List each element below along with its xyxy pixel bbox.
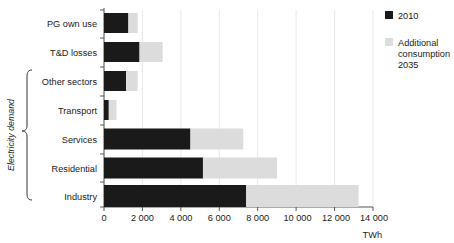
bar-segment-t-d-losses-2010 <box>104 42 140 62</box>
bar-segment-residential-additional-2035 <box>203 158 277 179</box>
bar-row-services <box>104 129 243 150</box>
xtick-4000: 4 000 <box>169 213 192 223</box>
bar-segment-pg-own-use-additional-2035 <box>128 13 137 33</box>
legend-swatch-2010 <box>385 11 393 19</box>
category-label-services: Services <box>62 135 98 145</box>
xtick-10000: 10 000 <box>283 213 311 223</box>
x-axis-ticks <box>104 207 373 211</box>
electricity-demand-brace <box>22 70 32 200</box>
legend-label-additional-line2: consumption <box>398 49 450 59</box>
category-label-transport: Transport <box>58 106 97 116</box>
bar-row-other-sectors <box>104 71 138 91</box>
category-label-residential: Residential <box>52 164 97 174</box>
legend-label-additional-line1: Additional <box>398 38 438 48</box>
bar-segment-transport-2010 <box>104 100 109 120</box>
legend-label-2010: 2010 <box>398 11 418 21</box>
bar-row-residential <box>104 158 277 179</box>
category-label-industry: Industry <box>64 192 97 202</box>
x-axis-unit-label: TWh <box>363 230 382 240</box>
legend-label-additional-line3: 2035 <box>398 60 418 70</box>
xtick-2000: 2 000 <box>131 213 154 223</box>
bar-segment-other-sectors-2010 <box>104 71 126 91</box>
bar-row-industry <box>104 185 359 207</box>
xtick-6000: 6 000 <box>208 213 231 223</box>
x-axis-tick-labels: 0 2 000 4 000 6 000 8 000 10 000 12 000 … <box>101 213 388 223</box>
bar-segment-other-sectors-additional-2035 <box>126 71 138 91</box>
stacked-bar-chart: PG own use T&D losses Other sectors Tran… <box>0 0 454 243</box>
legend-swatch-additional <box>385 38 393 46</box>
category-label-td-losses: T&D losses <box>50 48 97 58</box>
bar-segment-pg-own-use-2010 <box>104 13 128 33</box>
category-label-pg-own-use: PG own use <box>47 19 97 29</box>
y-axis-ticks <box>100 10 104 207</box>
bar-row-t-d-losses <box>104 42 163 62</box>
bar-segment-t-d-losses-additional-2035 <box>140 42 163 62</box>
chart-container: PG own use T&D losses Other sectors Tran… <box>0 0 454 243</box>
bar-row-transport <box>104 100 116 120</box>
xtick-0: 0 <box>101 213 106 223</box>
bar-segment-transport-additional-2035 <box>109 100 117 120</box>
bar-segment-services-additional-2035 <box>190 129 243 150</box>
bar-segment-industry-additional-2035 <box>246 185 358 207</box>
xtick-12000: 12 000 <box>322 213 350 223</box>
category-label-other-sectors: Other sectors <box>42 77 98 87</box>
xtick-14000: 14 000 <box>360 213 388 223</box>
bar-row-pg-own-use <box>104 13 138 33</box>
group-label-electricity-demand: Electricity demand <box>6 98 16 171</box>
bar-segment-industry-2010 <box>104 185 246 207</box>
bar-segment-residential-2010 <box>104 158 203 179</box>
category-labels: PG own use T&D losses Other sectors Tran… <box>42 19 98 202</box>
xtick-8000: 8 000 <box>246 213 269 223</box>
legend: 2010 Additional consumption 2035 <box>385 11 450 70</box>
bar-segment-services-2010 <box>104 129 190 150</box>
